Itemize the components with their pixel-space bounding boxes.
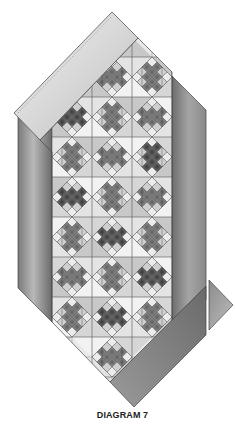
diagram-caption: DIAGRAM 7 <box>0 410 235 420</box>
quilt-diagram <box>0 0 235 410</box>
corner-triangle-piece <box>209 280 233 330</box>
left-side-panel <box>18 113 52 322</box>
